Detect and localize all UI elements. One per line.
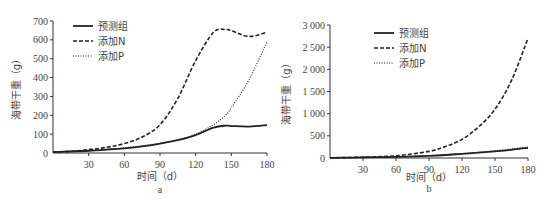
legend-label: 预测组 (98, 20, 128, 32)
y-tick-label: 3 000 (303, 20, 326, 31)
series-line (330, 38, 528, 157)
y-tick-label: 1 000 (303, 108, 326, 119)
y-tick-label: 0 (320, 153, 325, 164)
series-line (53, 125, 267, 152)
x-axis-label: 时间（d） (137, 170, 183, 182)
legend-label: 添加N (399, 42, 426, 54)
y-tick-label: 200 (33, 110, 48, 121)
x-tick-label: 60 (119, 159, 129, 170)
series-line (53, 29, 267, 152)
y-tick-label: 0 (43, 148, 48, 159)
x-tick-label: 150 (488, 164, 503, 175)
x-tick-label: 90 (155, 159, 165, 170)
y-tick-label: 500 (33, 53, 48, 64)
panel-caption: b (427, 183, 432, 194)
y-axis-label: 海带干重（g） (10, 54, 22, 120)
y-tick-label: 600 (33, 34, 48, 45)
series-line (53, 42, 267, 152)
y-tick-label: 100 (33, 129, 48, 140)
x-tick-label: 180 (521, 164, 536, 175)
x-tick-label: 120 (455, 164, 470, 175)
y-tick-label: 500 (310, 130, 325, 141)
x-tick-label: 150 (224, 159, 239, 170)
x-tick-label: 120 (188, 159, 203, 170)
legend: 预测组添加N添加P (73, 20, 128, 62)
legend: 预测组添加N添加P (374, 27, 429, 69)
legend-label: 添加N (98, 35, 125, 47)
x-tick-label: 180 (260, 159, 275, 170)
x-tick-label: 60 (391, 164, 401, 175)
y-tick-label: 700 (33, 16, 48, 27)
legend-label: 添加P (399, 57, 425, 69)
chart-panel-a: 0100200300400500600700306090120150180时间（… (10, 16, 275, 196)
x-tick-label: 30 (84, 159, 94, 170)
legend-label: 预测组 (399, 27, 429, 39)
y-tick-label: 400 (33, 72, 48, 83)
y-tick-label: 300 (33, 91, 48, 102)
y-axis-label: 海带干重（g） (280, 58, 292, 124)
y-tick-label: 2 500 (303, 42, 326, 53)
panel-caption: a (158, 184, 163, 195)
x-axis-label: 时间（d） (406, 171, 452, 183)
y-tick-label: 2 000 (303, 64, 326, 75)
y-tick-label: 1 500 (303, 86, 326, 97)
x-tick-label: 30 (358, 164, 368, 175)
series-line (330, 148, 528, 158)
chart-figure: 0100200300400500600700306090120150180时间（… (0, 0, 552, 206)
chart-panel-b: 05001 0001 5002 0002 5003 00030609012015… (280, 20, 536, 195)
legend-label: 添加P (98, 50, 124, 62)
